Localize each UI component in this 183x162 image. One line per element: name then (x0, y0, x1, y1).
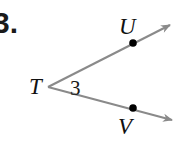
problem-number-label: 3. (0, 6, 18, 40)
angle-diagram-svg (0, 0, 183, 162)
point-marker-V (129, 104, 137, 112)
point-marker-U (129, 39, 137, 47)
ray-T-to-U (48, 25, 170, 87)
ray-T-to-V (48, 87, 172, 120)
point-label-U: U (119, 15, 136, 38)
vertex-label-T: T (29, 75, 42, 98)
angle-number-label: 3 (70, 78, 81, 99)
geometry-figure: 3. T U V 3 (0, 0, 183, 162)
point-label-V: V (118, 115, 132, 138)
